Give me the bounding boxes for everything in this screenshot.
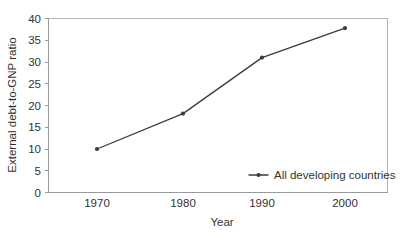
line-chart: 0 5 10 15 20 25 30 35 40 1970 1980 1990 … (0, 0, 401, 236)
data-point (95, 147, 99, 151)
legend-symbol-marker (256, 173, 260, 177)
x-axis-title: Year (210, 216, 233, 228)
y-tick-label: 5 (35, 165, 41, 177)
data-point (181, 112, 185, 116)
y-tick-label: 40 (28, 13, 41, 25)
x-tick-label: 1970 (84, 197, 110, 209)
y-tick-label: 30 (28, 56, 41, 68)
y-tick-label: 35 (28, 34, 41, 46)
data-point (343, 26, 347, 30)
chart-container: 0 5 10 15 20 25 30 35 40 1970 1980 1990 … (0, 0, 401, 236)
y-tick-label: 25 (28, 78, 41, 90)
x-tick-label: 1990 (249, 197, 275, 209)
x-tick-label: 1980 (170, 197, 196, 209)
data-point (260, 56, 264, 60)
y-tick-label: 10 (28, 143, 41, 155)
y-axis-title: External debt-to-GNP ratio (6, 37, 18, 172)
x-tick-label: 2000 (332, 197, 358, 209)
legend-item-label: All developing countries (274, 169, 396, 181)
y-tick-label: 20 (28, 100, 41, 112)
y-tick-label: 15 (28, 121, 41, 133)
y-tick-label: 0 (35, 187, 41, 199)
